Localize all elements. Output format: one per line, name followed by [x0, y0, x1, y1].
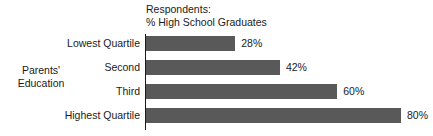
- category-label: Highest Quartile: [65, 108, 140, 123]
- chart-title-line-1: Respondents:: [146, 3, 267, 16]
- bar-value-label: 28%: [241, 36, 262, 51]
- bar-value-label: 42%: [286, 60, 307, 75]
- bar-fill: [146, 36, 235, 51]
- bar-row: Third 60%: [0, 84, 433, 99]
- bar-row: Highest Quartile 80%: [0, 108, 433, 123]
- bar-fill: [146, 108, 401, 123]
- bar-fill: [146, 84, 337, 99]
- bar-value-label: 80%: [407, 108, 428, 123]
- bar-row: Second 42%: [0, 60, 433, 75]
- bar-chart: Respondents: % High School Graduates Par…: [0, 0, 433, 136]
- bar-row: Lowest Quartile 28%: [0, 36, 433, 51]
- bar-value-label: 60%: [343, 84, 364, 99]
- chart-title-line-2: % High School Graduates: [146, 16, 267, 29]
- category-label: Second: [104, 60, 140, 75]
- bar-fill: [146, 60, 280, 75]
- chart-title: Respondents: % High School Graduates: [146, 3, 267, 29]
- category-label: Lowest Quartile: [67, 36, 140, 51]
- plot-area: Lowest Quartile 28% Second 42% Third 60%…: [0, 34, 433, 132]
- category-label: Third: [116, 84, 140, 99]
